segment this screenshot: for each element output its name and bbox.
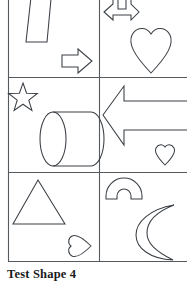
cylinder-right-arc (91, 112, 104, 166)
cell-r1c1 (26, 0, 92, 73)
heart-shape (131, 28, 171, 73)
crescent-moon-shape (136, 205, 174, 260)
cell-r1c2 (104, 0, 171, 73)
cell-r2c2 (103, 86, 187, 165)
cylinder-shape (40, 112, 104, 166)
shape-matrix-svg (0, 0, 187, 262)
grid-lines (9, 0, 188, 262)
cell-r3c1 (13, 180, 91, 257)
right-arrow-shape (62, 49, 92, 73)
cell-r2c1 (9, 83, 104, 166)
shape-matrix-figure (0, 0, 187, 262)
star-shape (9, 83, 38, 110)
arch-shape (106, 178, 142, 199)
cell-r3c2 (106, 178, 174, 260)
heart-small-shape (155, 145, 174, 165)
heart-rotated-shape (69, 235, 91, 256)
triangle-shape (13, 180, 65, 224)
left-arrow-shape (103, 86, 187, 145)
cylinder-left-ellipse (40, 112, 66, 166)
figure-caption: Test Shape 4 (7, 266, 76, 282)
figure-page: Test Shape 4 (0, 0, 187, 287)
trapezoid-shape (26, 0, 52, 42)
double-headed-arrow-shape (104, 0, 139, 20)
